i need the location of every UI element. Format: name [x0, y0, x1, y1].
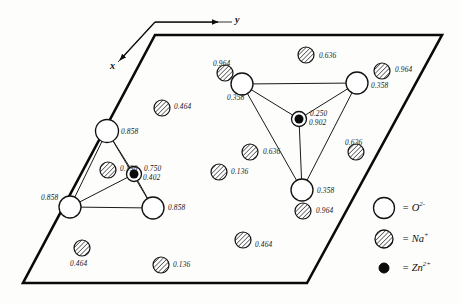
height-label-Na-6: 0.136	[231, 168, 248, 175]
oxygen-atom-O-L-top	[96, 120, 119, 143]
legend-oxygen-charge: 2-	[419, 200, 425, 207]
height-label-Na-3: 0.464	[70, 260, 87, 267]
sodium-atom-Na-5	[235, 232, 251, 248]
legend-item-sodium: = Na+	[402, 231, 429, 244]
sodium-atom-Na-2	[100, 162, 116, 178]
height-label-O-R-bottom: 0.358	[317, 187, 334, 194]
sodium-atom-Na-1	[154, 100, 170, 116]
oxygen-atom-O-R-right	[346, 72, 368, 94]
bond-O-R-left-O-R-bottom	[242, 84, 302, 190]
legend-item-oxygen: = O2-	[402, 200, 425, 213]
crystal-structure-diagram	[0, 0, 460, 303]
height-label-Na-8: 0.964	[213, 60, 230, 67]
zinc-atom-core-Zn-right	[295, 115, 304, 124]
oxygen-atom-O-R-bottom	[291, 179, 313, 201]
legend-oxygen-text: = O	[402, 202, 419, 213]
legend-sodium-charge: +	[424, 231, 429, 238]
bond-O-R-right-O-R-bottom	[302, 83, 357, 190]
oxygen-atom-O-R-left	[231, 73, 253, 95]
height-label-Zn-right-b: 0.902	[309, 119, 326, 126]
height-label-Na-1: 0.464	[174, 103, 191, 110]
oxygen-atom-O-L-right	[142, 197, 164, 219]
height-label-O-R-right: 0.358	[371, 82, 388, 89]
sodium-atom-Na-6	[211, 164, 227, 180]
height-label-Na-11: 0.636	[345, 139, 362, 146]
height-label-Na-7: 0.636	[263, 148, 280, 155]
height-label-Zn-left-a: 0.750	[144, 165, 161, 172]
oxygen-atom-O-L-left	[59, 196, 81, 218]
height-label-Zn-right-a: 0.250	[310, 110, 327, 117]
sodium-atom-Na-12	[295, 203, 311, 219]
height-label-O-L-right: 0.858	[168, 204, 185, 211]
legend-marks	[374, 198, 395, 274]
bond-layer	[70, 83, 357, 208]
legend-zinc-text: = Zn	[402, 262, 423, 273]
height-label-Na-2: 0.136	[120, 165, 137, 172]
atom-layer	[59, 47, 390, 273]
legend-zinc-charge: 2+	[423, 260, 431, 267]
height-label-Zn-left-b: 0.402	[143, 174, 160, 181]
axis-indicator	[118, 22, 232, 62]
bond-O-L-left-O-L-right	[70, 207, 153, 208]
height-label-O-L-left: 0.858	[41, 194, 58, 201]
height-label-Na-4: 0.136	[173, 261, 190, 268]
height-label-Na-9: 0.636	[319, 52, 336, 59]
figure-canvas: 0.4640.1360.4640.1360.4640.1360.6360.964…	[0, 0, 460, 303]
height-label-O-R-left: 0.358	[227, 94, 244, 101]
sodium-atom-Na-7	[242, 144, 258, 160]
sodium-atom-Na-3	[74, 240, 90, 256]
legend-item-zinc: = Zn2+	[402, 260, 431, 273]
axis-label-y: y	[235, 14, 239, 25]
height-label-Na-10: 0.964	[395, 66, 412, 73]
height-label-O-L-top: 0.858	[121, 128, 138, 135]
height-label-Na-5: 0.464	[255, 241, 272, 248]
sodium-atom-Na-4	[153, 257, 169, 273]
axis-label-x: x	[110, 60, 115, 71]
height-label-Na-12: 0.964	[316, 207, 333, 214]
sodium-atom-Na-10	[374, 63, 390, 79]
legend-sodium-text: = Na	[402, 233, 424, 244]
sodium-atom-Na-9	[298, 47, 314, 63]
bond-O-R-left-O-R-right	[242, 83, 357, 84]
